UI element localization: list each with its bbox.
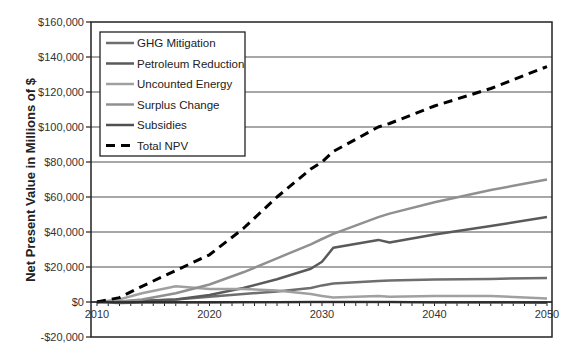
x-tick-label: 2020 bbox=[197, 308, 221, 320]
x-tick-label: 2050 bbox=[535, 308, 559, 320]
legend-label: Surplus Change bbox=[137, 99, 219, 111]
legend-label: Total NPV bbox=[137, 140, 188, 152]
legend: GHG MitigationPetroleum ReductionUncount… bbox=[100, 32, 245, 156]
y-tick-label: $140,000 bbox=[38, 51, 84, 63]
y-tick-label: $160,000 bbox=[38, 16, 84, 28]
legend-label: GHG Mitigation bbox=[137, 37, 216, 49]
legend-label: Petroleum Reduction bbox=[137, 58, 244, 70]
x-axis-ticks: 20102020203020402050 bbox=[85, 302, 559, 320]
y-tick-label: $20,000 bbox=[44, 261, 84, 273]
npv-line-chart: $160,000$140,000$120,000$100,000$80,000$… bbox=[0, 0, 581, 358]
y-tick-label: $0 bbox=[72, 296, 84, 308]
y-tick-label: $40,000 bbox=[44, 226, 84, 238]
series-line-ghg-mitigation bbox=[97, 278, 547, 302]
y-tick-label: $80,000 bbox=[44, 156, 84, 168]
y-axis-label: Net Present Value in Millions of $ bbox=[23, 77, 38, 281]
x-tick-label: 2040 bbox=[422, 308, 446, 320]
y-tick-label: $100,000 bbox=[38, 121, 84, 133]
x-tick-label: 2030 bbox=[310, 308, 334, 320]
legend-label: Subsidies bbox=[137, 119, 187, 131]
series-line-surplus-change bbox=[97, 180, 547, 303]
legend-label: Uncounted Energy bbox=[137, 78, 233, 90]
legend-box bbox=[100, 32, 245, 156]
x-tick-label: 2010 bbox=[85, 308, 109, 320]
y-tick-label: $60,000 bbox=[44, 191, 84, 203]
y-tick-label: $120,000 bbox=[38, 86, 84, 98]
y-axis-ticks: $160,000$140,000$120,000$100,000$80,000$… bbox=[38, 16, 91, 343]
y-tick-label: -$20,000 bbox=[41, 331, 84, 343]
